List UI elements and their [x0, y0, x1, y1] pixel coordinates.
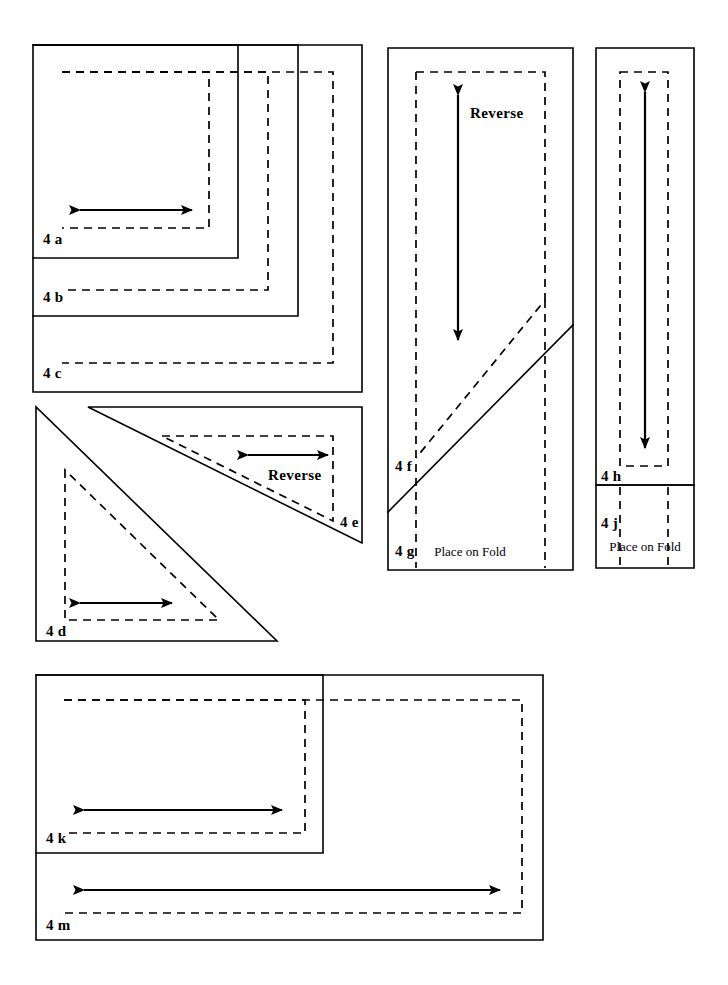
group-nested-rectangles: 4 c 4 b 4 a — [33, 45, 362, 392]
piece-4d[interactable]: 4 d — [36, 407, 277, 641]
label-4b: 4 b — [43, 289, 64, 305]
piece-4h[interactable]: 4 h — [596, 48, 694, 485]
label-4d: 4 d — [46, 623, 67, 639]
piece-4b[interactable]: 4 b — [33, 45, 298, 316]
seam-line-4f — [416, 72, 545, 458]
label-4g: 4 g — [395, 543, 415, 559]
piece-4j[interactable]: 4 j Place on Fold — [596, 485, 694, 568]
seam-line-4m — [64, 700, 522, 913]
piece-4a[interactable]: 4 a — [33, 45, 238, 258]
label-place-on-fold-4g: Place on Fold — [434, 544, 506, 559]
label-4c: 4 c — [43, 365, 62, 381]
seam-line-4d — [65, 470, 219, 620]
cut-line-4k — [36, 675, 323, 853]
label-reverse-4f: Reverse — [470, 105, 524, 121]
piece-4k[interactable]: 4 k — [36, 675, 323, 853]
pattern-canvas: 4 c 4 b 4 a 4 e Reverse — [0, 0, 728, 985]
label-4a: 4 a — [43, 231, 63, 247]
pattern-sheet: 4 c 4 b 4 a 4 e Reverse — [0, 0, 728, 985]
label-4m: 4 m — [46, 917, 71, 933]
seam-line-4c — [62, 72, 333, 363]
cut-line-4b — [33, 45, 298, 316]
label-4h: 4 h — [601, 468, 622, 484]
label-4k: 4 k — [46, 830, 67, 846]
piece-4e[interactable]: 4 e Reverse — [88, 407, 362, 543]
seam-line-4k — [64, 700, 305, 833]
cut-line-4c — [33, 45, 362, 392]
piece-4c[interactable]: 4 c — [33, 45, 362, 392]
label-place-on-fold-4j: Place on Fold — [609, 539, 681, 554]
group-bottom-rectangles: 4 m 4 k — [36, 675, 543, 940]
group-narrow-panel: 4 h 4 j Place on Fold — [596, 48, 694, 568]
piece-4m[interactable]: 4 m — [36, 675, 543, 940]
label-reverse-4e: Reverse — [268, 467, 322, 483]
label-4f: 4 f — [395, 458, 413, 474]
cut-line-4a — [33, 45, 238, 258]
group-triangles: 4 e Reverse 4 d — [36, 407, 362, 641]
seam-line-4a — [62, 72, 209, 228]
label-4j: 4 j — [601, 515, 618, 531]
label-4e: 4 e — [340, 514, 359, 530]
cut-line-4d — [36, 407, 277, 641]
cut-line-4m — [36, 675, 543, 940]
group-fold-panel: 4 g Place on Fold 4 f Reverse — [388, 48, 573, 570]
